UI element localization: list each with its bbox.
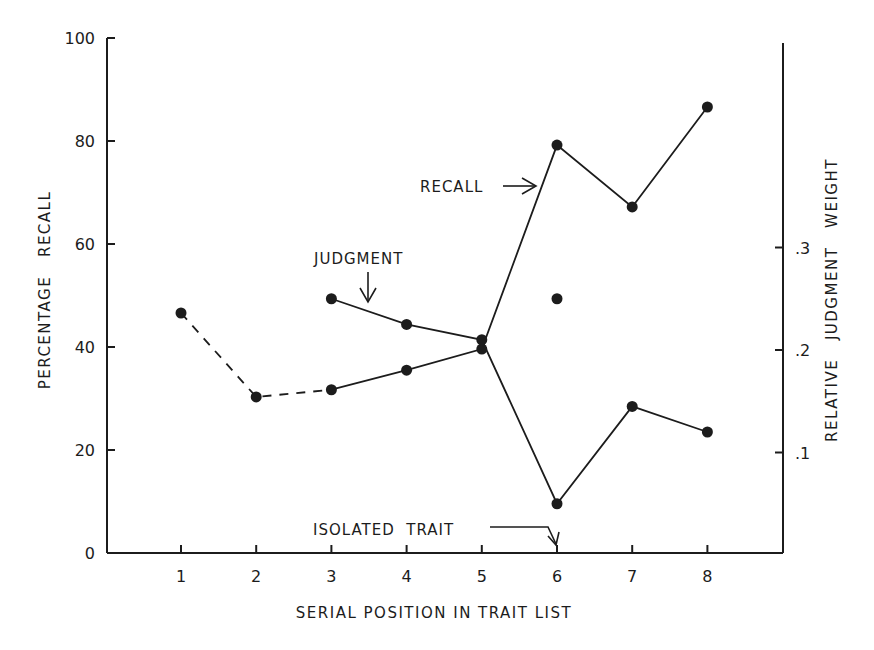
x-tick-label: 2 bbox=[251, 567, 261, 586]
series-layer bbox=[176, 102, 713, 510]
recall-point bbox=[702, 102, 713, 113]
recall-point bbox=[627, 201, 638, 212]
left-tick-label: 100 bbox=[64, 29, 95, 48]
judgment-point bbox=[401, 319, 412, 330]
x-axis-title: SERIAL POSITION IN TRAIT LIST bbox=[296, 604, 572, 622]
left-tick-label: 80 bbox=[75, 132, 95, 151]
x-axis-ticks: 12345678 bbox=[176, 545, 713, 586]
recall-point bbox=[552, 140, 563, 151]
judgment-point bbox=[326, 293, 337, 304]
isolated-point bbox=[552, 293, 563, 304]
annotation-isolated-trait: ISOLATED TRAIT bbox=[313, 521, 559, 545]
recall-point bbox=[176, 308, 187, 319]
judgment-point bbox=[702, 427, 713, 438]
left-tick-label: 60 bbox=[75, 235, 95, 254]
right-tick-label: .2 bbox=[795, 341, 810, 360]
x-tick-label: 6 bbox=[552, 567, 562, 586]
x-tick-label: 5 bbox=[477, 567, 487, 586]
judgment-point bbox=[552, 498, 563, 509]
right-tick-label: .3 bbox=[795, 239, 810, 258]
bent-arrow-icon bbox=[490, 527, 559, 545]
judgment-point bbox=[627, 401, 638, 412]
judgment-line bbox=[331, 299, 707, 504]
arrow-down-icon bbox=[360, 272, 376, 302]
recall-point bbox=[401, 365, 412, 376]
annotation-recall: RECALL bbox=[420, 178, 536, 196]
recall-point bbox=[251, 391, 262, 402]
recall-line-dashed bbox=[181, 313, 331, 397]
chart-canvas: 020406080100 .1.2.3 12345678 SERIAL POSI… bbox=[0, 0, 874, 650]
right-axis-ticks: .1.2.3 bbox=[775, 239, 810, 463]
judgment-point bbox=[476, 334, 487, 345]
annotation-recall-label: RECALL bbox=[420, 178, 483, 196]
left-tick-label: 20 bbox=[75, 441, 95, 460]
right-tick-label: .1 bbox=[795, 444, 810, 463]
recall-point bbox=[326, 384, 337, 395]
x-tick-label: 3 bbox=[326, 567, 336, 586]
right-axis-title: RELATIVE JUDGMENT WEIGHT bbox=[823, 158, 841, 442]
annotation-judgment-label: JUDGMENT bbox=[313, 250, 403, 268]
left-tick-label: 0 bbox=[85, 544, 95, 563]
left-axis-title: PERCENTAGE RECALL bbox=[36, 191, 54, 390]
annotation-isolated-trait-label: ISOLATED TRAIT bbox=[313, 521, 454, 539]
arrow-right-icon bbox=[503, 178, 536, 194]
x-tick-label: 8 bbox=[702, 567, 712, 586]
x-tick-label: 7 bbox=[627, 567, 637, 586]
recall-line bbox=[331, 107, 707, 390]
left-tick-label: 40 bbox=[75, 338, 95, 357]
annotation-judgment: JUDGMENT bbox=[313, 250, 403, 302]
x-tick-label: 1 bbox=[176, 567, 186, 586]
x-tick-label: 4 bbox=[402, 567, 412, 586]
